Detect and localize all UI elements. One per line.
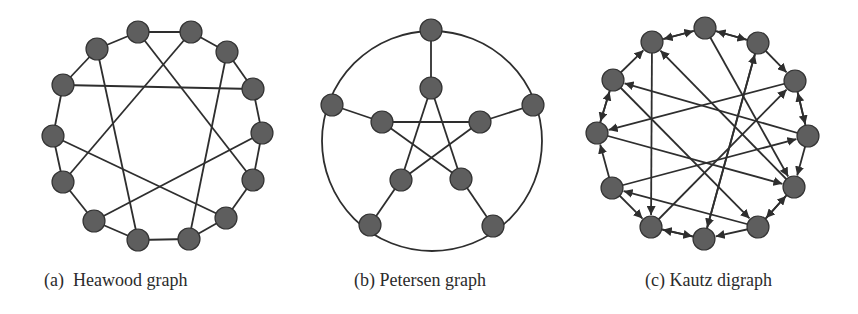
inner-node	[450, 168, 472, 190]
digraph-node	[694, 17, 716, 39]
pentagram-edge	[401, 88, 431, 180]
caption-kautz-digraph: (c) Kautz digraph	[645, 270, 772, 291]
digraph-node	[747, 216, 769, 238]
outer-node	[359, 214, 381, 236]
graph-node	[127, 229, 149, 251]
graph-node	[83, 210, 105, 232]
graph-node	[52, 171, 74, 193]
digraph-node	[784, 70, 806, 92]
digraph-node	[783, 176, 805, 198]
kautz-digraph-panel	[586, 17, 819, 250]
digraph-node	[601, 177, 623, 199]
digraph-node	[797, 125, 819, 147]
graph-node	[242, 169, 264, 191]
outer-node	[482, 215, 504, 237]
heawood-graph-panel	[42, 21, 273, 251]
figure: (a) Heawood graph (b) Petersen graph (c)…	[0, 0, 858, 314]
outer-node	[321, 94, 343, 116]
graph-node	[86, 38, 108, 60]
graph-node	[42, 125, 64, 147]
directed-edge	[651, 42, 652, 215]
outer-cycle-edge	[322, 31, 542, 251]
caption-petersen-graph: (b) Petersen graph	[354, 270, 486, 291]
graph-node	[180, 21, 202, 43]
graph-node	[52, 74, 74, 96]
inner-node	[420, 77, 442, 99]
chord-edge	[94, 133, 262, 221]
pentagram-edge	[382, 122, 461, 179]
directed-edge	[660, 51, 794, 187]
inner-node	[371, 111, 393, 133]
inner-node	[390, 169, 412, 191]
graph-node	[215, 207, 237, 229]
digraph-node	[586, 122, 608, 144]
chord-edge	[63, 85, 253, 89]
petersen-graph-panel	[321, 19, 544, 251]
graph-node	[178, 228, 200, 250]
chord-edge	[63, 32, 191, 182]
outer-node	[420, 19, 442, 41]
graph-node	[127, 21, 149, 43]
graph-figure-canvas	[0, 0, 858, 314]
graph-node	[216, 41, 238, 63]
chord-edge	[97, 49, 138, 240]
digraph-node	[693, 228, 715, 250]
digraph-node	[747, 32, 769, 54]
outer-node	[522, 94, 544, 116]
digraph-node	[640, 216, 662, 238]
chord-edge	[53, 136, 226, 218]
digraph-node	[641, 31, 663, 53]
caption-heawood-graph: (a) Heawood graph	[44, 270, 187, 291]
pentagram-edge	[431, 88, 461, 179]
digraph-node	[602, 69, 624, 91]
graph-node	[242, 78, 264, 100]
inner-node	[469, 111, 491, 133]
graph-node	[251, 122, 273, 144]
